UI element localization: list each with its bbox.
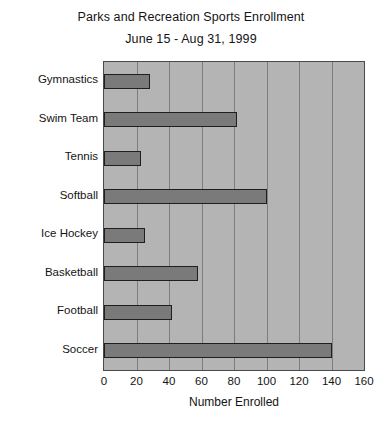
chart-subtitle: June 15 - Aug 31, 1999	[0, 30, 382, 48]
bar-row	[104, 101, 364, 140]
x-axis-tick-80: 80	[228, 374, 241, 388]
bar-ice-hockey	[104, 228, 145, 243]
x-axis-tick-40: 40	[163, 374, 176, 388]
x-axis-tick-160: 160	[354, 374, 373, 388]
page-title: Parks and Recreation Sports Enrollment	[0, 8, 382, 26]
bars-layer	[104, 62, 364, 370]
x-axis-tick-0: 0	[101, 374, 107, 388]
y-axis-label-basketball: Basketball	[0, 266, 98, 279]
x-axis-tick-labels: 020406080100120140160	[103, 374, 365, 390]
y-axis-label-softball: Softball	[0, 189, 98, 202]
y-axis-label-soccer: Soccer	[0, 343, 98, 356]
bar-softball	[104, 189, 267, 204]
y-axis-category-labels: GymnasticsSwim TeamTennisSoftballIce Hoc…	[0, 61, 98, 371]
bar-row	[104, 139, 364, 178]
bar-chart-figure: Parks and Recreation Sports Enrollment J…	[0, 0, 382, 436]
bar-basketball	[104, 266, 198, 281]
bar-row	[104, 62, 364, 101]
x-axis-title: Number Enrolled	[103, 394, 365, 410]
bar-tennis	[104, 151, 141, 166]
x-axis-tick-120: 120	[289, 374, 308, 388]
bar-row	[104, 216, 364, 255]
bar-soccer	[104, 343, 332, 358]
bar-swim-team	[104, 112, 237, 127]
plot-area	[103, 61, 365, 371]
y-axis-label-tennis: Tennis	[0, 150, 98, 163]
bar-row	[104, 293, 364, 332]
bar-row	[104, 255, 364, 294]
bar-football	[104, 305, 172, 320]
bar-gymnastics	[104, 74, 150, 89]
x-axis-tick-100: 100	[257, 374, 276, 388]
bar-row	[104, 332, 364, 371]
x-axis-tick-20: 20	[130, 374, 143, 388]
y-axis-label-ice-hockey: Ice Hockey	[0, 227, 98, 240]
y-axis-label-football: Football	[0, 304, 98, 317]
y-axis-label-swim-team: Swim Team	[0, 112, 98, 125]
y-axis-label-gymnastics: Gymnastics	[0, 73, 98, 86]
x-axis-tick-140: 140	[322, 374, 341, 388]
bar-row	[104, 178, 364, 217]
chart-title-block: Parks and Recreation Sports Enrollment J…	[0, 8, 382, 48]
x-axis-tick-60: 60	[195, 374, 208, 388]
